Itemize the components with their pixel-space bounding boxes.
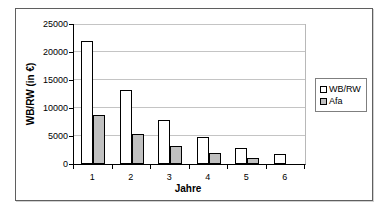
bar-afa-year-3: [170, 146, 182, 164]
bar-wbrw-year-2: [120, 90, 132, 164]
x-tick-label: 1: [73, 172, 111, 182]
x-tick-label: 6: [266, 172, 304, 182]
x-tick-label: 5: [227, 172, 265, 182]
y-axis-tick: [69, 136, 73, 137]
x-tick-label: 2: [112, 172, 150, 182]
gridline: [74, 24, 305, 25]
x-axis-title: Jahre: [175, 183, 202, 194]
bar-afa-year-4: [209, 153, 221, 164]
x-tick-label: 3: [150, 172, 188, 182]
x-axis-tick: [304, 165, 305, 169]
bar-wbrw-year-4: [197, 137, 209, 164]
bar-wbrw-year-3: [158, 120, 170, 164]
bar-afa-year-2: [132, 134, 144, 164]
bar-afa-year-1: [93, 115, 105, 164]
plot-area: [73, 24, 306, 165]
y-tick-label: 5000: [24, 131, 68, 141]
page-background: WB/RW (in €) Jahre WB/RW Afa 05000100001…: [0, 0, 381, 217]
gridline: [74, 107, 305, 108]
bar-wbrw-year-1: [81, 41, 93, 164]
legend-label-wbrw: WB/RW: [329, 83, 361, 95]
x-tick-label: 4: [189, 172, 227, 182]
y-tick-label: 0: [24, 159, 68, 169]
bar-afa-year-5: [247, 158, 259, 164]
y-axis-tick: [69, 80, 73, 81]
legend-item-afa: Afa: [320, 95, 363, 107]
x-axis-tick: [73, 165, 74, 169]
gridline: [74, 135, 305, 136]
x-axis-tick: [189, 165, 190, 169]
y-axis-title: WB/RW (in €): [25, 63, 36, 126]
x-axis-tick: [227, 165, 228, 169]
legend: WB/RW Afa: [315, 78, 367, 112]
bar-wbrw-year-6: [274, 154, 286, 164]
gridline: [74, 51, 305, 52]
y-axis-tick: [69, 52, 73, 53]
legend-marker-wbrw-icon: [320, 86, 327, 93]
y-tick-label: 15000: [24, 75, 68, 85]
y-axis-tick: [69, 24, 73, 25]
x-axis-tick: [112, 165, 113, 169]
legend-item-wbrw: WB/RW: [320, 83, 363, 95]
gridline: [74, 79, 305, 80]
chart-frame: WB/RW (in €) Jahre WB/RW Afa 05000100001…: [15, 8, 373, 201]
y-tick-label: 20000: [24, 47, 68, 57]
y-tick-label: 25000: [24, 19, 68, 29]
legend-label-afa: Afa: [329, 95, 343, 107]
x-axis-tick: [150, 165, 151, 169]
x-axis-tick: [266, 165, 267, 169]
bar-wbrw-year-5: [235, 148, 247, 164]
y-axis-tick: [69, 108, 73, 109]
y-tick-label: 10000: [24, 103, 68, 113]
legend-marker-afa-icon: [320, 98, 327, 105]
